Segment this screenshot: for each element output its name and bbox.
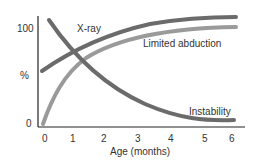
x-tick-0: 0 <box>42 133 48 144</box>
chart: 100 % 0 0 1 2 3 4 5 6 Age (months) X-ray… <box>0 0 256 163</box>
y-axis-label: % <box>20 70 29 81</box>
y-tick-0: 0 <box>26 118 32 129</box>
instability-label: Instability <box>189 106 231 117</box>
x-tick-2: 2 <box>101 133 107 144</box>
limited-abduction-label: Limited abduction <box>143 38 221 49</box>
x-tick-5: 5 <box>202 133 208 144</box>
x-tick-3: 3 <box>135 133 141 144</box>
x-tick-6: 6 <box>229 133 235 144</box>
xray-label: X-ray <box>77 23 101 34</box>
x-axis-label: Age (months) <box>110 146 170 157</box>
x-tick-1: 1 <box>70 133 76 144</box>
x-tick-4: 4 <box>168 133 174 144</box>
y-tick-100: 100 <box>17 23 34 34</box>
